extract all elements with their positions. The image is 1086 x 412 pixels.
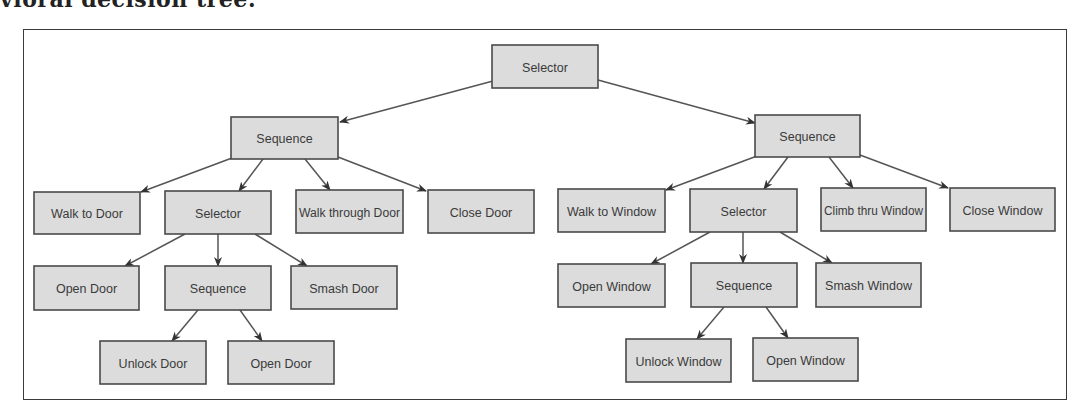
node-label: Sequence: [256, 132, 312, 146]
node-label: Walk to Window: [567, 205, 657, 219]
edge-seqR-to-climbWindow: [829, 157, 853, 188]
node-label: Smash Window: [825, 279, 913, 293]
edge-selL-to-smashDoor: [255, 234, 307, 266]
node-label: Walk to Door: [51, 207, 123, 221]
node-label: Unlock Door: [119, 357, 188, 371]
node-seqR: Sequence: [755, 115, 860, 157]
edge-seqR-to-walkWindow: [666, 156, 757, 190]
node-openWindow1: Open Window: [558, 264, 665, 307]
node-climbWindow: Climb thru Window: [821, 188, 926, 231]
node-label: Open Window: [572, 280, 651, 294]
node-label: Walk through Door: [299, 206, 400, 220]
node-selR: Selector: [690, 189, 797, 232]
edge-seqL2-to-openDoor2: [240, 310, 262, 341]
node-openWindow2: Open Window: [753, 338, 858, 381]
edge-seqR2-to-unlockWindow: [697, 307, 724, 339]
edge-seqL-to-walkDoor: [141, 158, 232, 192]
node-selL: Selector: [165, 191, 271, 234]
nodes-layer: SelectorSequenceSequenceWalk to DoorSele…: [34, 45, 1055, 384]
edge-selR-to-smashWindow: [780, 232, 832, 263]
node-label: Open Window: [766, 354, 845, 368]
node-walkWindow: Walk to Window: [558, 189, 665, 232]
edge-seqL-to-selL: [239, 159, 263, 191]
node-label: Sequence: [190, 282, 246, 296]
node-walkThruDoor: Walk through Door: [296, 190, 403, 233]
edge-root-to-seqR: [598, 80, 755, 123]
node-label: Selector: [195, 207, 241, 221]
edge-selL-to-openDoor1: [125, 234, 185, 266]
node-smashDoor: Smash Door: [291, 266, 397, 309]
edge-seqR2-to-openWindow2: [766, 307, 788, 338]
node-label: Selector: [721, 205, 767, 219]
node-label: Close Door: [450, 206, 513, 220]
node-label: Close Window: [963, 204, 1044, 218]
node-label: Climb thru Window: [824, 204, 924, 218]
node-smashWindow: Smash Window: [816, 263, 921, 307]
node-seqR2: Sequence: [691, 263, 797, 307]
node-closeDoor: Close Door: [428, 190, 534, 233]
edge-root-to-seqL: [340, 81, 493, 122]
node-label: Sequence: [779, 130, 835, 144]
node-unlockDoor: Unlock Door: [100, 341, 206, 384]
edge-seqR-to-closeWindow: [860, 155, 948, 188]
node-label: Smash Door: [309, 282, 378, 296]
edge-seqL2-to-unlockDoor: [172, 310, 198, 341]
node-label: Sequence: [716, 279, 772, 293]
edge-seqR-to-selR: [764, 157, 788, 189]
node-label: Open Door: [56, 282, 117, 296]
node-openDoor1: Open Door: [34, 266, 139, 310]
node-openDoor2: Open Door: [228, 341, 334, 384]
edge-selR-to-openWindow1: [651, 232, 710, 264]
edge-seqL-to-closeDoor: [338, 157, 426, 191]
node-seqL: Sequence: [231, 117, 338, 159]
node-seqL2: Sequence: [165, 266, 271, 310]
node-closeWindow: Close Window: [950, 188, 1055, 231]
node-root: Selector: [492, 45, 598, 88]
behavior-tree-diagram: SelectorSequenceSequenceWalk to DoorSele…: [0, 0, 1086, 412]
edge-seqL-to-walkThruDoor: [305, 159, 330, 190]
node-label: Unlock Window: [635, 355, 722, 369]
node-label: Open Door: [250, 357, 311, 371]
node-walkDoor: Walk to Door: [34, 192, 140, 234]
node-unlockWindow: Unlock Window: [626, 339, 731, 382]
node-label: Selector: [522, 61, 568, 75]
